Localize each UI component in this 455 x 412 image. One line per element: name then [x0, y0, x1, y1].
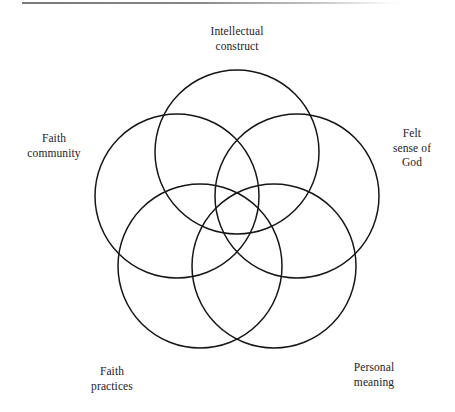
label-felt-sense-of-god: Felt sense of God [372, 126, 452, 170]
venn-diagram-figure: Intellectual construct Felt sense of God… [0, 0, 455, 412]
label-faith-practices: Faith practices [60, 364, 164, 393]
label-faith-community: Faith community [2, 131, 106, 160]
circle-intellectual-construct [155, 70, 319, 234]
label-intellectual-construct: Intellectual construct [170, 24, 304, 53]
venn-circles-group [0, 0, 455, 412]
label-personal-meaning: Personal meaning [322, 360, 426, 389]
